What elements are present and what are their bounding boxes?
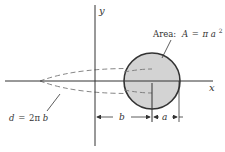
dimension-a-label: a [162, 112, 167, 122]
y-axis-label: y [98, 5, 105, 16]
area-label-var: a [211, 29, 216, 39]
distance-label-coef: 2π [29, 113, 40, 123]
area-label: Area: A = π a 2 [152, 27, 223, 39]
area-label-prefix: Area: [152, 29, 176, 39]
x-axis-label: x [209, 82, 215, 93]
theorem-of-pappus-diagram: y x Area: A = π a 2 d = 2π b b a [0, 0, 225, 152]
distance-label: d = 2π b [9, 113, 48, 123]
distance-label-lhs: d [9, 113, 15, 123]
distance-label-var: b [43, 113, 48, 123]
distance-label-eq: = [18, 113, 25, 123]
area-label-lhs: A [181, 29, 188, 39]
distance-leader [47, 94, 60, 111]
dimension-b-label: b [119, 112, 125, 122]
area-leader [162, 40, 171, 58]
area-label-exp: 2 [219, 27, 223, 34]
area-label-eq: = [192, 29, 199, 39]
area-label-pi: π [202, 29, 209, 39]
